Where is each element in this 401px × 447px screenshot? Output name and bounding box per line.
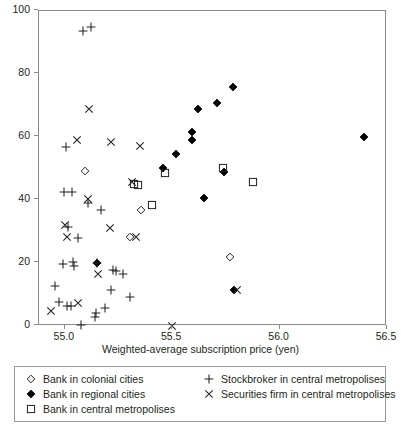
y-axis-tick: 40 — [0, 193, 38, 205]
y-axis-tick-label: 60 — [18, 129, 30, 141]
plot-area — [38, 10, 386, 325]
x-axis-tick: 55.0 — [44, 325, 84, 343]
legend-entry-label: Bank in central metropolises — [43, 402, 175, 417]
x-axis-tick-mark — [386, 325, 387, 329]
x-axis-title: Weighted-average subscription price (yen… — [0, 343, 401, 355]
x-axis-tick-label: 56.5 — [366, 330, 401, 342]
legend: Bank in colonial citiesBank in regional … — [14, 366, 386, 422]
legend-entry-label: Bank in colonial cities — [43, 372, 143, 387]
legend-entry-label: Stockbroker in central metropolises — [221, 372, 385, 387]
y-axis-tick: 100 — [0, 4, 38, 16]
x-axis-tick-mark — [279, 325, 280, 329]
legend-entry: Securities firm in central metropolises — [201, 387, 387, 402]
x-axis-tick-label: 56.0 — [259, 330, 299, 342]
legend-entry: Bank in colonial cities — [23, 372, 203, 387]
y-axis-tick-label: 40 — [18, 192, 30, 204]
y-axis-tick: 60 — [0, 130, 38, 142]
x-axis-tick: 55.5 — [151, 325, 191, 343]
x-axis-tick-mark — [171, 325, 172, 329]
cross-icon — [201, 387, 217, 402]
legend-column-left: Bank in colonial citiesBank in regional … — [23, 372, 203, 417]
x-axis-tick-label: 55.5 — [151, 330, 191, 342]
legend-entry: Bank in central metropolises — [23, 402, 203, 417]
y-axis-tick-label: 0 — [24, 318, 30, 330]
open-diamond-icon — [23, 372, 39, 387]
open-square-icon — [23, 402, 39, 417]
legend-entry-label: Bank in regional cities — [43, 387, 145, 402]
x-axis-tick: 56.0 — [259, 325, 299, 343]
x-axis-tick-label: 55.0 — [44, 330, 84, 342]
data-points-layer — [39, 11, 385, 324]
y-axis-tick: 0 — [0, 319, 38, 331]
y-axis-tick-label: 20 — [18, 255, 30, 267]
y-axis-tick: 20 — [0, 256, 38, 268]
y-axis-tick-label: 100 — [12, 3, 30, 15]
plus-icon — [201, 372, 217, 387]
x-axis-tick-mark — [64, 325, 65, 329]
y-axis-tick-label: 80 — [18, 66, 30, 78]
legend-entry: Bank in regional cities — [23, 387, 203, 402]
y-axis-tick: 80 — [0, 67, 38, 79]
legend-entry-label: Securities firm in central metropolises — [221, 387, 395, 402]
legend-entry: Stockbroker in central metropolises — [201, 372, 387, 387]
legend-column-right: Stockbroker in central metropolisesSecur… — [201, 372, 387, 402]
scatter-plot-figure: 020406080100 55.055.556.056.5 Weighted-a… — [0, 0, 401, 447]
filled-diamond-icon — [23, 387, 39, 402]
x-axis-tick: 56.5 — [366, 325, 401, 343]
